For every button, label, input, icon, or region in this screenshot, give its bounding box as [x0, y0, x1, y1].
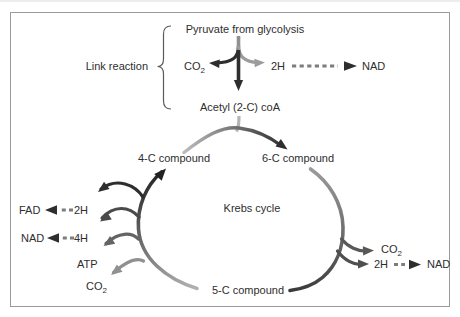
- link-reaction-label: Link reaction: [55, 60, 148, 72]
- h2-right-label: 2H: [374, 258, 388, 270]
- compound-5c-label: 5-C compound: [196, 284, 300, 296]
- fad-label: FAD: [19, 204, 40, 216]
- acetyl-coa-label: Acetyl (2-C) coA: [165, 101, 315, 113]
- nad-right-label: NAD: [427, 258, 450, 270]
- co2-link-label: CO2: [184, 60, 205, 75]
- screenshot-top-edge: [0, 0, 460, 2]
- compound-6c-label: 6-C compound: [248, 152, 348, 164]
- co2-right-label: CO2: [381, 243, 402, 258]
- pyruvate-label: Pyruvate from glycolysis: [165, 23, 325, 35]
- co2-left-label: CO2: [86, 280, 107, 295]
- krebs-cycle-label: Krebs cycle: [197, 202, 307, 214]
- h2-left-label: 2H: [74, 204, 88, 216]
- nad-link-label: NAD: [362, 60, 385, 72]
- nad-left-label: NAD: [21, 232, 44, 244]
- compound-4c-label: 4-C compound: [124, 152, 224, 164]
- h4-left-label: 4H: [74, 232, 88, 244]
- atp-label: ATP: [77, 258, 98, 270]
- h2-link-label: 2H: [271, 60, 285, 72]
